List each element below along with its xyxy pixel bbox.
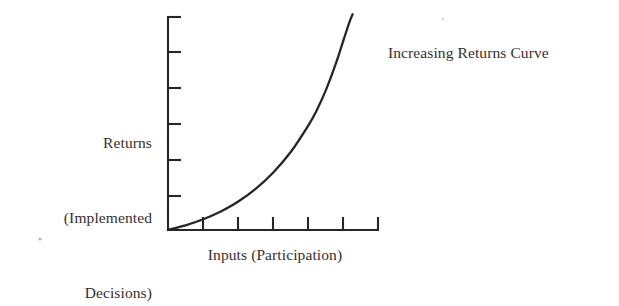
scan-speck-secondary (442, 18, 444, 20)
y-axis-label: Returns (Implemented Decisions) (0, 80, 152, 306)
curve-annotation-label: Increasing Returns Curve (388, 43, 549, 63)
y-axis-label-line-2: (Implemented (0, 205, 152, 230)
x-axis-group (167, 217, 379, 230)
y-axis-label-line-1: Returns (0, 130, 152, 155)
x-axis-label: Inputs (Participation) (150, 245, 400, 265)
y-axis-group (168, 16, 181, 231)
y-axis-label-line-3: Decisions) (0, 280, 152, 305)
increasing-returns-curve-path (168, 14, 353, 230)
